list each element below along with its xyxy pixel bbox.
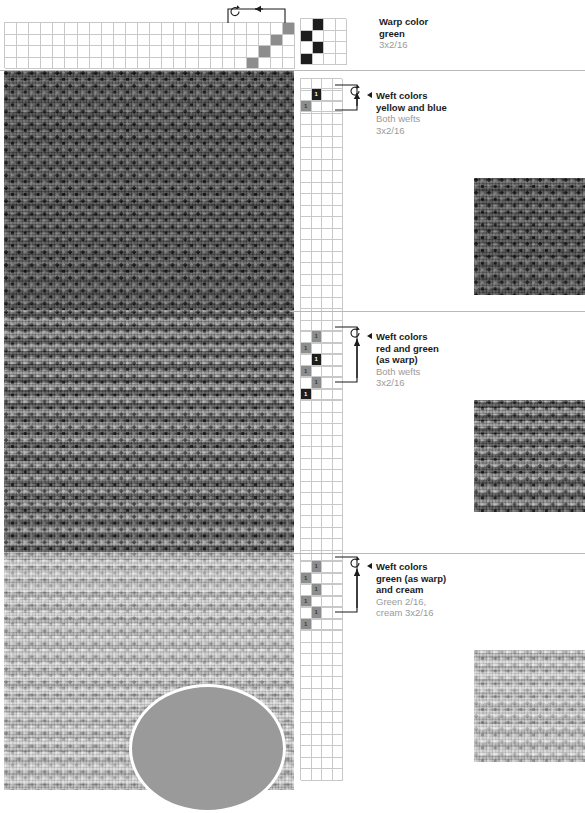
threading-cell[interactable] (90, 58, 102, 70)
treadling-cell[interactable] (312, 596, 323, 608)
treadling-cell[interactable] (301, 401, 312, 413)
treadling-cell[interactable] (333, 148, 344, 160)
treadling-cell[interactable] (312, 343, 323, 355)
treadling-cell[interactable] (301, 607, 312, 619)
threading-cell[interactable] (65, 58, 77, 70)
treadling-cell[interactable] (333, 229, 344, 241)
treadling-cell[interactable] (312, 275, 323, 287)
treadling-cell[interactable] (301, 275, 312, 287)
threading-cell[interactable] (5, 46, 17, 58)
treadling-cell[interactable] (322, 607, 333, 619)
treadling-cell[interactable] (322, 275, 333, 287)
treadling-cell[interactable] (333, 447, 344, 459)
treadling-cell[interactable] (312, 482, 323, 494)
threading-cell[interactable] (150, 35, 162, 47)
treadling-cell[interactable] (301, 194, 312, 206)
tieup-cell[interactable] (313, 42, 325, 54)
threading-cell[interactable] (78, 35, 90, 47)
treadling-cell[interactable] (312, 723, 323, 735)
treadling-cell[interactable]: 1 (301, 619, 312, 631)
treadling-cell[interactable] (322, 482, 333, 494)
treadling-cell[interactable] (322, 447, 333, 459)
treadling-cell[interactable] (322, 459, 333, 471)
threading-cell[interactable] (138, 58, 150, 70)
threading-cell[interactable] (174, 23, 186, 35)
treadling-cell[interactable] (312, 413, 323, 425)
treadling-cell[interactable] (301, 723, 312, 735)
treadling-cell[interactable] (322, 160, 333, 172)
treadling-cell[interactable]: 1 (312, 89, 323, 101)
treadling-cell[interactable] (333, 137, 344, 149)
treadling-cell[interactable] (301, 493, 312, 505)
treadling-cell[interactable] (322, 619, 333, 631)
treadling-cell[interactable] (333, 401, 344, 413)
treadling-cell[interactable] (333, 746, 344, 758)
threading-cell[interactable] (186, 58, 198, 70)
treadling-cell[interactable] (322, 631, 333, 643)
treadling-cell[interactable] (322, 389, 333, 401)
treadling-cell[interactable] (322, 735, 333, 747)
threading-cell[interactable] (90, 46, 102, 58)
threading-cell[interactable] (138, 46, 150, 58)
treadling-cell[interactable] (312, 240, 323, 252)
threading-cell[interactable] (247, 58, 259, 70)
treadling-cell[interactable] (301, 769, 312, 781)
treadling-cell[interactable] (312, 459, 323, 471)
tieup-cell[interactable] (313, 19, 325, 31)
treadling-cell[interactable] (322, 240, 333, 252)
threading-cell[interactable] (271, 46, 283, 58)
threading-cell[interactable] (162, 58, 174, 70)
treadling-cell[interactable] (312, 746, 323, 758)
treadling-cell[interactable] (333, 275, 344, 287)
treadling-cell[interactable] (333, 194, 344, 206)
treadling-cell[interactable] (333, 183, 344, 195)
treadling-cell[interactable] (301, 240, 312, 252)
treadling-cell[interactable] (312, 217, 323, 229)
treadling-cell[interactable] (301, 539, 312, 551)
treadling-cell[interactable] (322, 101, 333, 113)
threading-cell[interactable] (211, 23, 223, 35)
threading-cell[interactable] (126, 23, 138, 35)
treadling-cell[interactable] (322, 125, 333, 137)
treadling-cell[interactable] (333, 436, 344, 448)
treadling-cell[interactable] (333, 286, 344, 298)
treadling-cell[interactable] (322, 746, 333, 758)
treadling-cell[interactable] (301, 459, 312, 471)
treadling-cell[interactable] (333, 666, 344, 678)
treadling-cell[interactable] (301, 229, 312, 241)
threading-cell[interactable] (162, 35, 174, 47)
treadling-cell[interactable] (301, 331, 312, 343)
treadling-cell[interactable] (322, 229, 333, 241)
treadling-cell[interactable] (312, 493, 323, 505)
threading-cell[interactable] (65, 35, 77, 47)
threading-cell[interactable] (65, 23, 77, 35)
treadling-cell[interactable] (322, 700, 333, 712)
threading-cell[interactable] (29, 58, 41, 70)
treadling-cell[interactable] (301, 217, 312, 229)
threading-cell[interactable] (199, 23, 211, 35)
treadling-cell[interactable]: 1 (301, 596, 312, 608)
threading-cell[interactable] (211, 46, 223, 58)
threading-draft[interactable] (4, 22, 294, 68)
treadling-cell[interactable] (301, 677, 312, 689)
treadling-cell[interactable] (322, 677, 333, 689)
treadling-cell[interactable] (333, 654, 344, 666)
threading-cell[interactable] (150, 46, 162, 58)
treadling-cell[interactable] (322, 217, 333, 229)
threading-cell[interactable] (41, 35, 53, 47)
treadling-cell[interactable] (312, 769, 323, 781)
treadling-cell[interactable] (312, 389, 323, 401)
treadling-cell[interactable] (301, 286, 312, 298)
treadling-cell[interactable] (333, 735, 344, 747)
treadling-cell[interactable] (333, 723, 344, 735)
threading-cell[interactable] (235, 58, 247, 70)
treadling-cell[interactable] (301, 436, 312, 448)
tieup-cell[interactable] (313, 54, 325, 66)
treadling-cell[interactable] (301, 505, 312, 517)
treadling-cell[interactable]: 1 (301, 573, 312, 585)
treadling-cell[interactable] (301, 758, 312, 770)
treadling-cell[interactable] (301, 298, 312, 310)
treadling-cell[interactable] (312, 137, 323, 149)
treadling-cell[interactable] (312, 366, 323, 378)
treadling-cell[interactable] (312, 470, 323, 482)
